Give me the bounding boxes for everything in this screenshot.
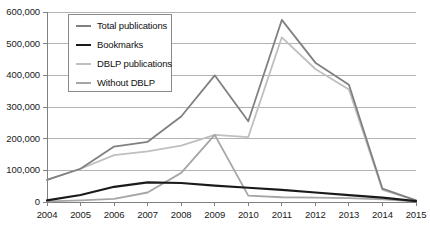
legend-label: DBLP publications <box>97 58 172 69</box>
legend-label: Total publications <box>97 20 167 31</box>
series-line-without-dblp <box>47 135 416 202</box>
y-tick-label: 600,000 <box>0 6 40 17</box>
y-tick-label: 500,000 <box>0 38 40 49</box>
legend-label: Without DBLP <box>97 77 155 88</box>
y-tick-label: 400,000 <box>0 69 40 80</box>
legend-item: DBLP publications <box>69 54 171 73</box>
legend-item: Bookmarks <box>69 35 171 54</box>
legend-swatch-line <box>76 63 91 65</box>
legend-swatch-line <box>76 25 91 27</box>
legend-item: Total publications <box>69 16 171 35</box>
y-tick-label: 100,000 <box>0 164 40 175</box>
y-tick-label: 200,000 <box>0 133 40 144</box>
legend-item: Without DBLP <box>69 73 171 92</box>
legend-swatch-line <box>76 44 91 46</box>
y-tick-label: 0 <box>0 196 40 207</box>
y-tick-label: 300,000 <box>0 101 40 112</box>
legend-swatch-line <box>76 82 91 84</box>
chart-canvas <box>0 0 430 233</box>
x-tick-label: 2015 <box>396 209 430 220</box>
line-chart: 600,000500,000400,000300,000200,000100,0… <box>0 0 430 233</box>
legend-label: Bookmarks <box>97 39 143 50</box>
chart-legend: Total publicationsBookmarksDBLP publicat… <box>68 14 172 92</box>
